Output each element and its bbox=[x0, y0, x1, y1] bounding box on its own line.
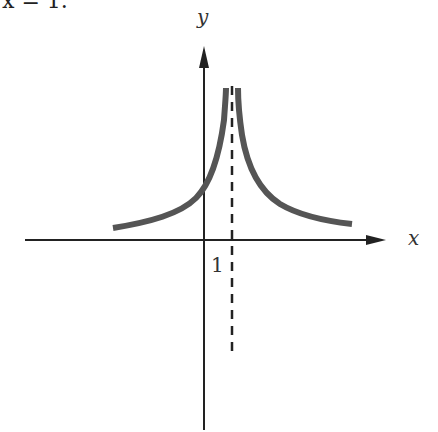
curve-right-branch bbox=[238, 88, 352, 224]
x-axis-arrow-icon bbox=[366, 235, 386, 245]
asymptote-graph: y x 1 bbox=[0, 0, 438, 432]
curve-left-branch bbox=[113, 88, 226, 228]
y-axis-label: y bbox=[196, 5, 209, 29]
x-axis-label: x bbox=[408, 226, 419, 250]
x-axis bbox=[25, 235, 386, 245]
y-axis-arrow-icon bbox=[199, 46, 209, 68]
y-axis bbox=[199, 46, 209, 430]
tick-label-1: 1 bbox=[211, 253, 224, 277]
